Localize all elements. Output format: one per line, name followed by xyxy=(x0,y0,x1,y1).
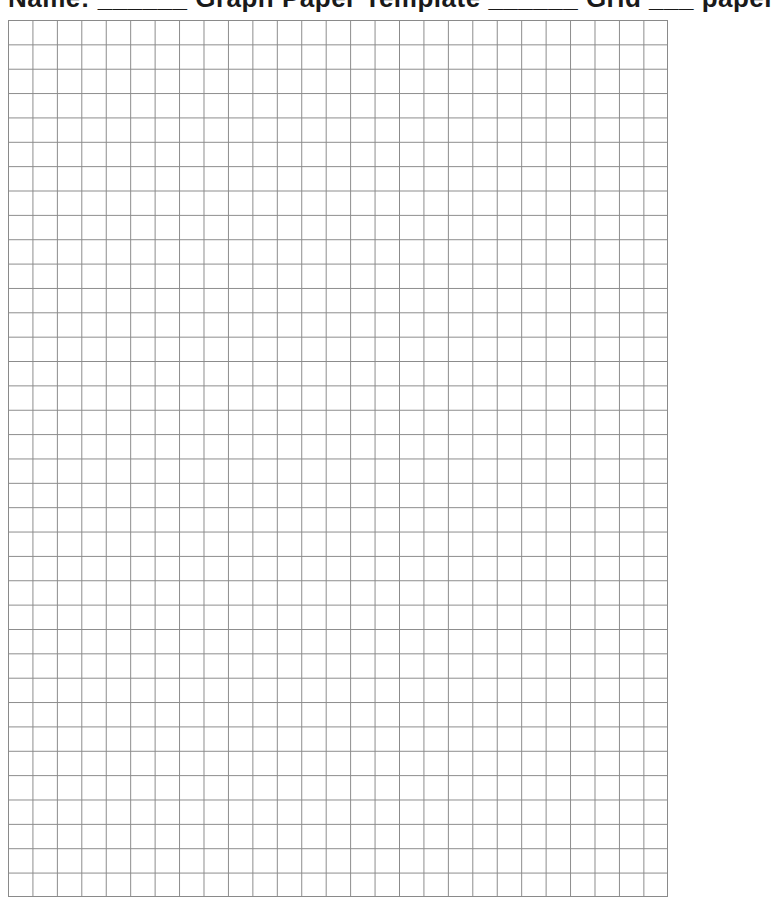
grid-lines xyxy=(8,20,668,897)
grid-border-bottom xyxy=(8,896,668,897)
grid-border-right xyxy=(667,20,668,897)
graph-paper-grid xyxy=(8,20,668,897)
page-title: Name: ______ Graph Paper Template ______… xyxy=(8,0,775,13)
